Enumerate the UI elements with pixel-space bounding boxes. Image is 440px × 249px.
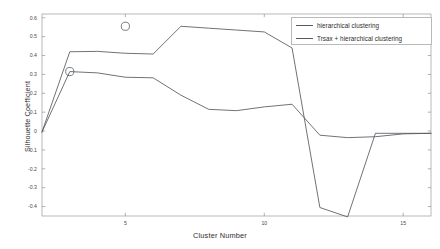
x-tick-label: 5 [115, 220, 135, 226]
y-tick-label: 0 [15, 128, 37, 134]
legend-label-0: hierarchical clustering [317, 22, 379, 29]
x-axis-label: Cluster Number [0, 231, 440, 240]
legend-item-hierarchical-clustering: hierarchical clustering [292, 19, 379, 32]
selected-point-hierarchical-marker [121, 22, 129, 30]
legend-line-swatch-1 [296, 38, 313, 39]
y-tick-label: -0.2 [15, 166, 37, 172]
silhouette-coefficient-chart: Silhouette Coefficient Cluster Number 0.… [0, 0, 440, 249]
x-tick-label: 10 [254, 220, 274, 226]
y-tick-label: 0.2 [15, 90, 37, 96]
series-line-1 [42, 72, 431, 138]
y-tick-label: -0.4 [15, 203, 37, 209]
legend-line-swatch-0 [296, 25, 313, 26]
legend-label-1: Trsax + hierarchical clustering [317, 35, 402, 42]
y-tick-label: 0.3 [15, 71, 37, 77]
y-tick-label: -0.1 [15, 147, 37, 153]
series-line-0 [42, 26, 431, 217]
y-tick-label: 0.6 [15, 15, 37, 21]
chart-legend: hierarchical clustering Trsax + hierarch… [291, 17, 432, 45]
y-tick-label: 0.5 [15, 33, 37, 39]
y-tick-label: -0.3 [15, 184, 37, 190]
x-tick-label: 15 [393, 220, 413, 226]
legend-item-trsax-hierarchical-clustering: Trsax + hierarchical clustering [292, 32, 402, 45]
y-tick-label: 0.1 [15, 109, 37, 115]
y-tick-label: 0.4 [15, 52, 37, 58]
